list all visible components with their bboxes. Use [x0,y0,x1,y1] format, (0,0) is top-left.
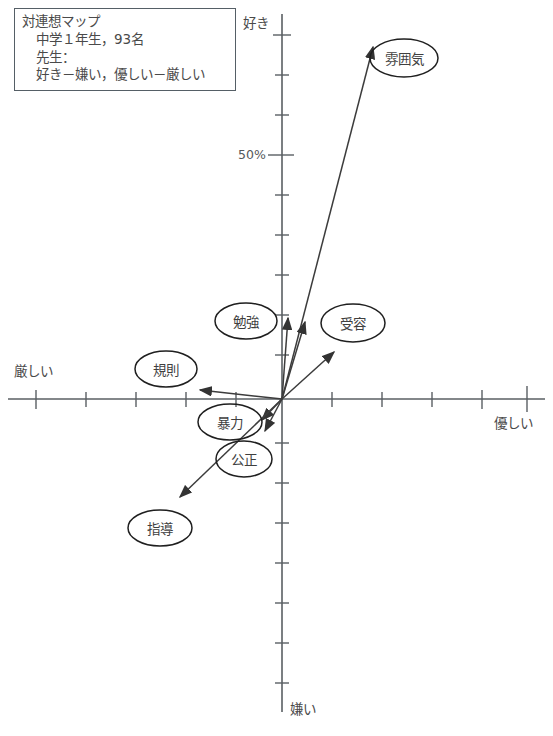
plot-canvas [0,0,553,736]
axis-label-bottom: 嫌い [290,698,316,718]
vector-arrow-funiki [282,47,373,399]
legend-box: 対連想マップ 中学１年生，93名 先生： 好き－嫌い，優しい－厳しい [14,8,236,91]
node-label-funiki: 雰囲気 [385,48,424,68]
vector-arrow-kisoku [200,390,282,399]
y-tick-label-50pct: 50% [238,147,266,162]
legend-title: 対連想マップ [22,13,229,31]
axis-label-right: 優しい [494,412,533,432]
y-axis-ticks [268,35,294,683]
association-map-chart: 対連想マップ 中学１年生，93名 先生： 好き－嫌い，優しい－厳しい 好き 嫌い… [0,0,553,736]
node-label-boryoku: 暴力 [217,412,243,432]
node-label-juyo: 受容 [340,313,366,333]
node-label-shido: 指導 [147,518,173,538]
node-label-benkyo: 勉強 [233,311,259,331]
node-label-kosei: 公正 [231,449,257,469]
axis-label-left: 厳しい [14,360,53,380]
legend-subject-line: 先生： [22,49,229,67]
axis-y [268,14,294,712]
node-label-kisoku: 規則 [153,359,179,379]
legend-sample-line: 中学１年生，93名 [22,31,229,49]
legend-scales-line: 好き－嫌い，優しい－厳しい [22,66,229,84]
axis-label-top: 好き [243,12,269,32]
